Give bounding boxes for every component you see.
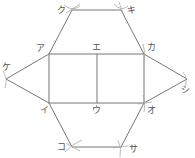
arc-ku-2 [66, 4, 80, 13]
arc-ki-2 [119, 2, 124, 16]
label-ko: コ [57, 143, 66, 152]
label-i: イ [40, 106, 49, 115]
arc-sa [118, 140, 121, 157]
label-shi: シ [181, 86, 190, 95]
arc-ke [3, 71, 6, 88]
arc-ko [65, 140, 82, 152]
compass-arcs [3, 2, 186, 157]
label-e: エ [92, 43, 101, 52]
prism-net-diagram [0, 0, 195, 158]
label-ke: ケ [2, 63, 11, 72]
label-o: オ [147, 106, 156, 115]
label-a: ア [36, 44, 45, 53]
label-u: ウ [92, 106, 101, 115]
label-ku: ク [57, 6, 66, 15]
right-triangle [144, 54, 187, 103]
label-ki: キ [127, 6, 136, 15]
left-triangle [6, 54, 49, 103]
label-sa: サ [129, 145, 138, 154]
net-edges [6, 10, 187, 147]
label-ka: カ [147, 43, 156, 52]
